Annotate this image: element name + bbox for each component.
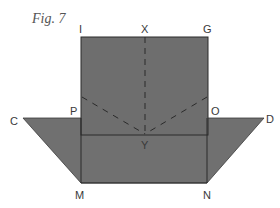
figure-caption: Fig. 7 (31, 11, 66, 26)
label-p: P (70, 105, 77, 117)
label-n: N (203, 189, 211, 201)
label-g: G (203, 23, 212, 35)
label-x: X (141, 23, 149, 35)
fig7-diagram: Fig. 7 I X G C P O D Y M N (0, 0, 280, 208)
label-i: I (79, 23, 82, 35)
label-d: D (266, 113, 274, 125)
label-m: M (75, 189, 84, 201)
label-y: Y (141, 139, 149, 151)
label-c: C (10, 115, 18, 127)
label-o: O (211, 105, 220, 117)
